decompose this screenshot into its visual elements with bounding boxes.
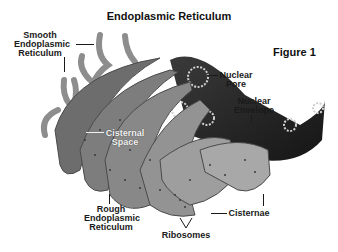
label-cisternae: Cisternae xyxy=(228,209,270,218)
leader-nuclear-pore xyxy=(207,75,218,76)
leader-cisternae-h xyxy=(211,213,227,214)
leader-smooth-er-v xyxy=(64,57,65,72)
label-nuclear-envelope: Nuclear Envelope xyxy=(232,97,276,115)
leader-ribosomes xyxy=(178,218,194,230)
leader-nuclear-envelope xyxy=(251,115,252,123)
leader-rough-er xyxy=(109,194,110,204)
label-rough-er: Rough Endoplasmic Reticulum xyxy=(84,205,138,232)
label-cisternal-space: Cisternal Space xyxy=(104,129,146,147)
leader-cisternal-space xyxy=(86,132,104,133)
label-nuclear-pore: Nuclear Pore xyxy=(218,71,254,89)
label-smooth-er: Smooth Endoplasmic Reticulum xyxy=(14,31,66,58)
leader-cisternae-v xyxy=(263,194,264,206)
label-ribosomes: Ribosomes xyxy=(160,231,212,240)
leader-smooth-er-h xyxy=(76,44,94,45)
